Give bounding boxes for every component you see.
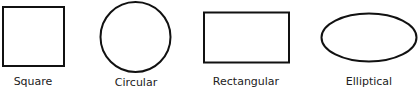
- circle-label: Circular: [115, 76, 158, 89]
- rectangle-label: Rectangular: [213, 75, 280, 88]
- ellipse-label: Elliptical: [346, 75, 392, 88]
- rectangle-figure: Rectangular: [204, 13, 289, 89]
- square-label: Square: [14, 75, 53, 88]
- shapes-diagram: Square Circular Rectangular Elliptical: [0, 0, 419, 95]
- rectangle-shape: [204, 13, 289, 63]
- circle-shape: [101, 2, 171, 72]
- circle-figure: Circular: [101, 2, 171, 89]
- square-figure: Square: [3, 7, 64, 88]
- ellipse-figure: Elliptical: [322, 14, 417, 89]
- square-shape: [3, 7, 64, 66]
- ellipse-shape: [322, 14, 417, 62]
